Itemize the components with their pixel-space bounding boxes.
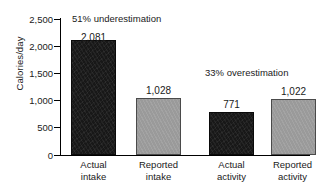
bar-actual-activity[interactable]	[209, 112, 254, 155]
x-axis-label-line1: Reported	[262, 159, 320, 171]
x-axis-label-line2: activity	[201, 171, 262, 183]
bar-reported-activity[interactable]	[271, 99, 316, 155]
x-axis-label-line1: Actual	[201, 159, 262, 171]
annotation-activity: 33% overestimation	[205, 68, 288, 78]
bar-value-reported-intake: 1,028	[128, 86, 189, 96]
x-axis-label-line1: Actual	[63, 159, 124, 171]
bar-actual-intake[interactable]	[71, 40, 116, 155]
bar-value-actual-intake: 2,081	[63, 33, 124, 43]
plot-area: 51% underestimation 33% overestimation 2…	[0, 0, 320, 194]
x-axis-label-line2: activity	[262, 171, 320, 183]
x-axis-label-line2: intake	[63, 171, 124, 183]
bar-chart: Calories/day 2,500 2,000 1,500 1,000 500…	[0, 0, 320, 194]
x-axis-label-reported-activity: Reported activity	[262, 159, 320, 182]
annotation-intake: 51% underestimation	[72, 14, 161, 24]
x-axis-label-line2: intake	[128, 171, 189, 183]
bar-value-actual-activity: 771	[201, 100, 262, 110]
bar-reported-intake[interactable]	[136, 98, 181, 155]
x-axis-label-actual-activity: Actual activity	[201, 159, 262, 182]
x-axis-label-line1: Reported	[128, 159, 189, 171]
x-axis-label-actual-intake: Actual intake	[63, 159, 124, 182]
bar-value-reported-activity: 1,022	[263, 87, 320, 97]
x-axis-label-reported-intake: Reported intake	[128, 159, 189, 182]
